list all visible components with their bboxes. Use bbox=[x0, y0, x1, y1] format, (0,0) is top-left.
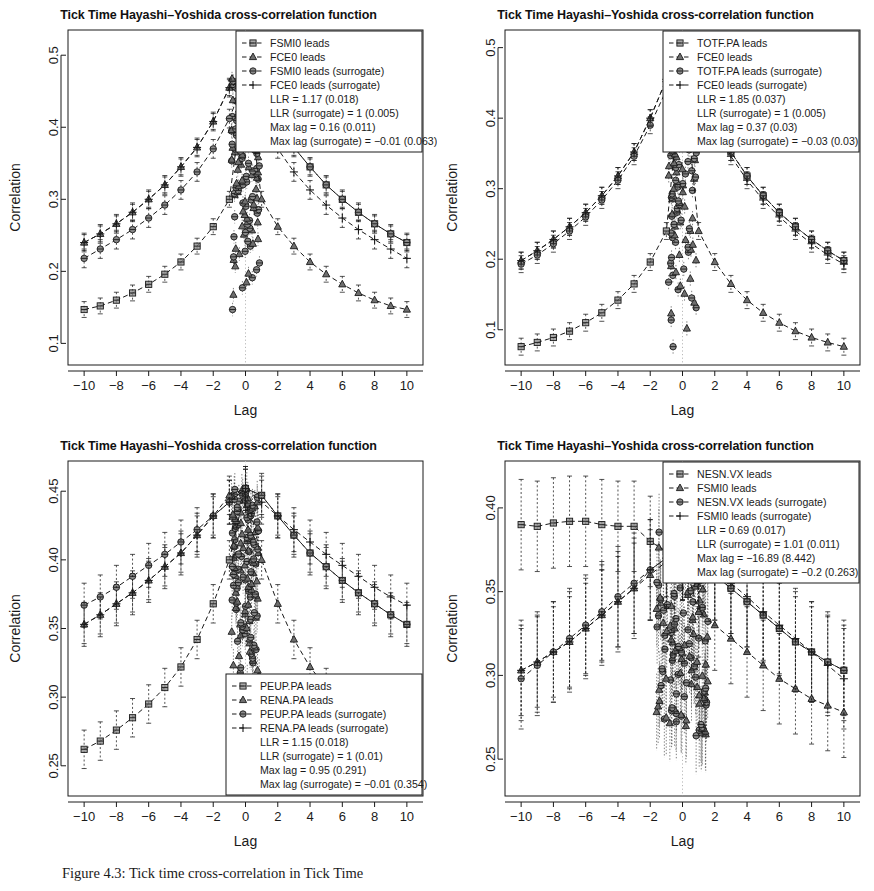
panel-top-left: Tick Time Hayashi–Yoshida cross-correlat… bbox=[0, 0, 437, 431]
svg-text:RENA.PA leads (surrogate): RENA.PA leads (surrogate) bbox=[260, 722, 388, 734]
svg-text:FCE0 leads (surrogate): FCE0 leads (surrogate) bbox=[697, 79, 807, 91]
svg-text:LLR (surrogate) = 1.01 (0.011): LLR (surrogate) = 1.01 (0.011) bbox=[697, 538, 840, 550]
svg-text:Max lag (surrogate) = −0.2 (0.: Max lag (surrogate) = −0.2 (0.263) bbox=[697, 566, 858, 578]
svg-text:2: 2 bbox=[274, 809, 281, 824]
svg-text:−10: −10 bbox=[510, 378, 532, 393]
plot-canvas-3: −10−8−6−4−20246810Lag0.250.300.350.400.4… bbox=[0, 431, 437, 862]
svg-text:0.35: 0.35 bbox=[46, 616, 61, 641]
svg-text:6: 6 bbox=[776, 378, 783, 393]
svg-text:−8: −8 bbox=[109, 378, 124, 393]
svg-text:4: 4 bbox=[743, 378, 750, 393]
svg-text:NESN.VX leads (surrogate): NESN.VX leads (surrogate) bbox=[697, 496, 827, 508]
svg-text:−4: −4 bbox=[611, 378, 626, 393]
svg-text:Max lag (surrogate) = −0.01 (0: Max lag (surrogate) = −0.01 (0.354) bbox=[260, 778, 427, 790]
svg-text:0.25: 0.25 bbox=[483, 746, 498, 771]
svg-text:10: 10 bbox=[837, 809, 851, 824]
svg-text:Max lag (surrogate) = −0.03 (0: Max lag (surrogate) = −0.03 (0.03) bbox=[697, 135, 858, 147]
svg-text:0: 0 bbox=[242, 809, 249, 824]
panel-top-right: Tick Time Hayashi–Yoshida cross-correlat… bbox=[437, 0, 874, 431]
svg-text:FSMI0 leads: FSMI0 leads bbox=[697, 482, 756, 494]
svg-text:−2: −2 bbox=[206, 809, 221, 824]
svg-text:Max lag = 0.37 (0.03): Max lag = 0.37 (0.03) bbox=[697, 121, 797, 133]
svg-text:0.2: 0.2 bbox=[483, 250, 498, 268]
svg-text:−8: −8 bbox=[109, 809, 124, 824]
svg-text:10: 10 bbox=[837, 378, 851, 393]
svg-text:Lag: Lag bbox=[671, 402, 694, 418]
svg-text:0.5: 0.5 bbox=[483, 39, 498, 57]
svg-text:Correlation: Correlation bbox=[444, 594, 460, 662]
svg-text:FCE0 leads (surrogate): FCE0 leads (surrogate) bbox=[270, 79, 380, 91]
svg-text:10: 10 bbox=[400, 378, 414, 393]
svg-text:0.3: 0.3 bbox=[46, 190, 61, 208]
svg-text:−6: −6 bbox=[578, 378, 593, 393]
svg-text:4: 4 bbox=[743, 809, 750, 824]
svg-text:PEUP.PA leads: PEUP.PA leads bbox=[260, 680, 331, 692]
svg-text:0.2: 0.2 bbox=[46, 262, 61, 280]
svg-text:LLR = 1.17 (0.018): LLR = 1.17 (0.018) bbox=[270, 93, 359, 105]
svg-text:8: 8 bbox=[371, 378, 378, 393]
svg-text:Correlation: Correlation bbox=[7, 163, 23, 231]
svg-text:0: 0 bbox=[242, 378, 249, 393]
svg-text:6: 6 bbox=[339, 378, 346, 393]
svg-text:8: 8 bbox=[808, 378, 815, 393]
svg-text:8: 8 bbox=[808, 809, 815, 824]
panel-grid: Tick Time Hayashi–Yoshida cross-correlat… bbox=[0, 0, 874, 862]
svg-text:0: 0 bbox=[679, 378, 686, 393]
svg-text:−6: −6 bbox=[578, 809, 593, 824]
plot-canvas-4: −10−8−6−4−20246810Lag0.250.300.350.40Cor… bbox=[437, 431, 874, 862]
svg-text:0.25: 0.25 bbox=[46, 753, 61, 778]
svg-text:4: 4 bbox=[306, 378, 313, 393]
svg-text:−2: −2 bbox=[643, 809, 658, 824]
svg-text:6: 6 bbox=[776, 809, 783, 824]
svg-text:FCE0 leads: FCE0 leads bbox=[270, 51, 325, 63]
svg-text:LLR = 0.69 (0.017): LLR = 0.69 (0.017) bbox=[697, 524, 786, 536]
svg-text:LLR (surrogate) = 1 (0.005): LLR (surrogate) = 1 (0.005) bbox=[697, 107, 826, 119]
panel-bottom-left: Tick Time Hayashi–Yoshida cross-correlat… bbox=[0, 431, 437, 862]
plot-canvas-2: −10−8−6−4−20246810Lag0.10.20.30.40.5Corr… bbox=[437, 0, 874, 431]
svg-text:Correlation: Correlation bbox=[444, 163, 460, 231]
svg-text:LLR = 1.15 (0.018): LLR = 1.15 (0.018) bbox=[260, 736, 349, 748]
svg-text:LLR (surrogate) = 1 (0.005): LLR (surrogate) = 1 (0.005) bbox=[270, 107, 399, 119]
svg-text:6: 6 bbox=[339, 809, 346, 824]
svg-text:−2: −2 bbox=[206, 378, 221, 393]
svg-text:RENA.PA leads: RENA.PA leads bbox=[260, 694, 333, 706]
svg-text:0.40: 0.40 bbox=[46, 547, 61, 572]
svg-text:FSMI0 leads: FSMI0 leads bbox=[270, 37, 329, 49]
svg-text:2: 2 bbox=[711, 378, 718, 393]
svg-text:Max lag (surrogate) = −0.01 (0: Max lag (surrogate) = −0.01 (0.063) bbox=[270, 135, 437, 147]
svg-text:8: 8 bbox=[371, 809, 378, 824]
svg-text:0.3: 0.3 bbox=[483, 180, 498, 198]
svg-text:−8: −8 bbox=[546, 378, 561, 393]
svg-text:0.5: 0.5 bbox=[46, 46, 61, 64]
svg-text:Max lag = −16.89 (8.442): Max lag = −16.89 (8.442) bbox=[697, 552, 815, 564]
svg-text:Lag: Lag bbox=[671, 833, 694, 849]
svg-text:PEUP.PA leads (surrogate): PEUP.PA leads (surrogate) bbox=[260, 708, 386, 720]
svg-text:Lag: Lag bbox=[234, 833, 257, 849]
svg-text:TOTF.PA leads: TOTF.PA leads bbox=[697, 37, 767, 49]
svg-text:4: 4 bbox=[306, 809, 313, 824]
svg-text:−4: −4 bbox=[611, 809, 626, 824]
svg-text:10: 10 bbox=[400, 809, 414, 824]
svg-text:FSMI0 leads (surrogate): FSMI0 leads (surrogate) bbox=[270, 65, 384, 77]
svg-text:LLR (surrogate) = 1 (0.01): LLR (surrogate) = 1 (0.01) bbox=[260, 750, 383, 762]
svg-text:−4: −4 bbox=[174, 809, 189, 824]
svg-text:2: 2 bbox=[711, 809, 718, 824]
svg-text:0.45: 0.45 bbox=[46, 479, 61, 504]
svg-text:−2: −2 bbox=[643, 378, 658, 393]
figure-root: Tick Time Hayashi–Yoshida cross-correlat… bbox=[0, 0, 874, 891]
svg-text:Lag: Lag bbox=[234, 402, 257, 418]
plot-canvas-1: −10−8−6−4−20246810Lag0.10.20.30.40.5Corr… bbox=[0, 0, 437, 431]
svg-text:0.1: 0.1 bbox=[483, 321, 498, 339]
svg-text:0: 0 bbox=[679, 809, 686, 824]
svg-text:−6: −6 bbox=[141, 809, 156, 824]
svg-text:−4: −4 bbox=[174, 378, 189, 393]
svg-text:0.30: 0.30 bbox=[483, 663, 498, 688]
svg-text:2: 2 bbox=[274, 378, 281, 393]
svg-text:0.40: 0.40 bbox=[483, 495, 498, 520]
svg-text:TOTF.PA leads (surrogate): TOTF.PA leads (surrogate) bbox=[697, 65, 822, 77]
svg-text:FCE0 leads: FCE0 leads bbox=[697, 51, 752, 63]
svg-text:Max lag = 0.95 (0.291): Max lag = 0.95 (0.291) bbox=[260, 764, 366, 776]
panel-bottom-right: Tick Time Hayashi–Yoshida cross-correlat… bbox=[437, 431, 874, 862]
svg-text:Max lag = 0.16 (0.011): Max lag = 0.16 (0.011) bbox=[270, 121, 376, 133]
svg-text:NESN.VX leads: NESN.VX leads bbox=[697, 468, 772, 480]
